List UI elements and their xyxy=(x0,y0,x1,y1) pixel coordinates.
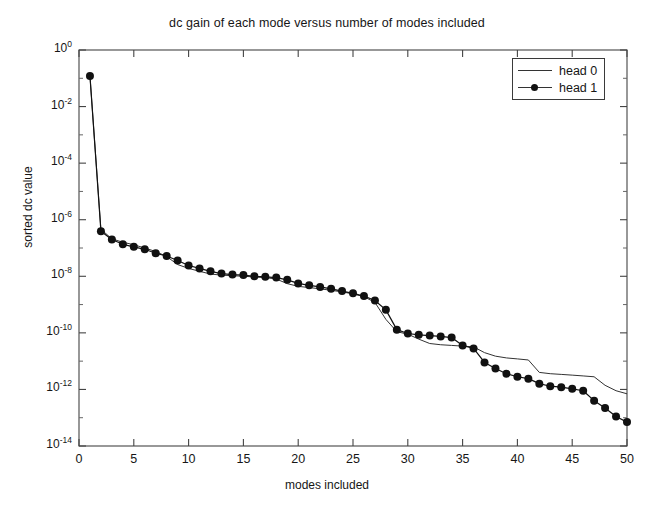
y-axis-ticks xyxy=(79,50,627,446)
legend-swatch-icon xyxy=(518,81,552,95)
x-tick-label: 50 xyxy=(607,452,647,466)
x-tick-label: 0 xyxy=(59,452,99,466)
legend-label: head 1 xyxy=(559,81,597,95)
y-tick-label: 100 xyxy=(54,41,72,55)
y-tick-label: 10-6 xyxy=(51,211,72,225)
x-tick-label: 15 xyxy=(223,452,263,466)
legend-label: head 0 xyxy=(559,64,597,78)
x-tick-label: 25 xyxy=(333,452,373,466)
x-tick-label: 30 xyxy=(388,452,428,466)
x-tick-label: 40 xyxy=(497,452,537,466)
y-tick-label: 10-4 xyxy=(51,154,72,168)
data-series-layer xyxy=(86,72,631,426)
y-tick-label: 10-8 xyxy=(51,267,72,281)
y-tick-label: 10-10 xyxy=(46,324,72,338)
axes-frame xyxy=(79,50,627,446)
y-tick-label: 10-14 xyxy=(46,437,72,451)
x-tick-label: 5 xyxy=(114,452,154,466)
y-tick-label: 10-12 xyxy=(46,380,72,394)
figure-canvas: dc gain of each mode versus number of mo… xyxy=(0,0,654,512)
legend-swatch-icon xyxy=(518,64,552,78)
legend: head 0head 1 xyxy=(512,58,605,100)
x-axis-ticks xyxy=(79,50,627,446)
legend-item-head-0[interactable]: head 0 xyxy=(518,62,597,79)
x-tick-label: 45 xyxy=(552,452,592,466)
x-tick-label: 20 xyxy=(278,452,318,466)
x-tick-label: 35 xyxy=(443,452,483,466)
legend-item-head-1[interactable]: head 1 xyxy=(518,79,597,96)
y-tick-label: 10-2 xyxy=(51,98,72,112)
x-tick-label: 10 xyxy=(169,452,209,466)
